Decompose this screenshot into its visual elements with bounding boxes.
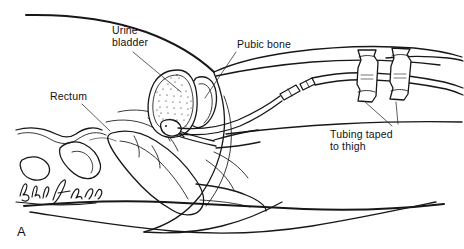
urine-bladder-label-line1: Urine xyxy=(112,24,148,36)
tubing-taped-label-line2: to thigh xyxy=(330,140,393,152)
pubic-bone-label: Pubic bone xyxy=(237,38,291,50)
urine-bladder-label-line2: bladder xyxy=(112,36,148,48)
pubic-bone-label-line1: Pubic bone xyxy=(237,38,291,50)
urine-bladder-label: Urine bladder xyxy=(112,24,148,48)
rectum-label-line1: Rectum xyxy=(50,90,87,102)
panel-letter: A xyxy=(17,222,26,240)
figure-background xyxy=(0,0,464,249)
catheter-eye-hole xyxy=(165,125,167,127)
tape-strip-proximal xyxy=(357,50,378,102)
illustration-canvas xyxy=(0,0,464,249)
tubing-taped-label: Tubing taped to thigh xyxy=(330,128,393,152)
rectum-label: Rectum xyxy=(50,90,87,102)
catheter-figure: Urine bladder Pubic bone Rectum Tubing t… xyxy=(0,0,464,249)
tubing-taped-label-line1: Tubing taped xyxy=(330,128,393,140)
